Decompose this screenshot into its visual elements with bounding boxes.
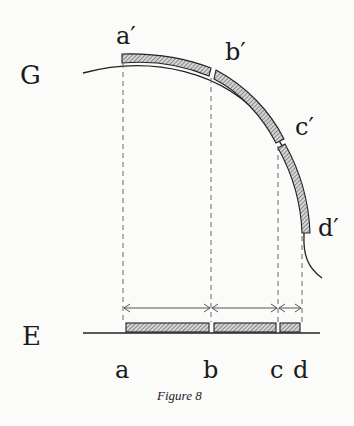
arc-segment-a-b — [122, 54, 211, 76]
dimension-arrows — [124, 304, 301, 312]
point-label-b: b — [203, 356, 218, 384]
segment-cd — [280, 323, 300, 332]
figure-caption: Figure 8 — [156, 388, 202, 403]
segment-ab — [126, 323, 209, 332]
point-label-a-prime: a′ — [116, 22, 136, 50]
point-label-c-prime: c′ — [295, 113, 314, 141]
curve-g — [83, 66, 322, 278]
point-label-d: d — [293, 356, 308, 384]
point-label-a: a — [115, 356, 129, 384]
point-label-d-prime: d′ — [318, 214, 339, 242]
point-label-b-prime: b′ — [225, 38, 246, 66]
line-label-e: E — [22, 321, 41, 351]
curve-label-g: G — [20, 60, 41, 90]
point-label-c: c — [270, 356, 283, 384]
segment-bc — [214, 323, 276, 332]
arc-segment-c-d — [278, 144, 310, 233]
projection-diagram: G E a′ b′ c′ d′ a b c d Figure 8 — [0, 0, 354, 426]
arc-segment-b-c — [214, 70, 284, 143]
